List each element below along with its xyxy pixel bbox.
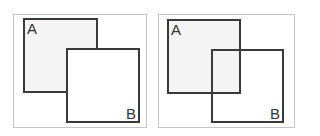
left-label-a: A [27, 21, 37, 36]
right-label-b: B [270, 106, 280, 121]
right-label-a: A [171, 22, 181, 37]
left-label-b: B [126, 106, 136, 121]
